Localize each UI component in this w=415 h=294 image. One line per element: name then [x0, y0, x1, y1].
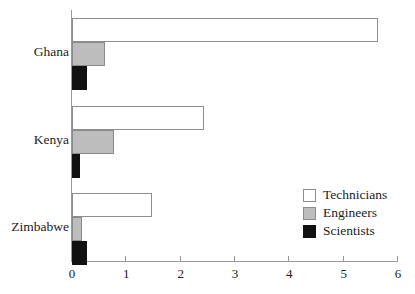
x-tick-label: 2	[166, 266, 196, 281]
legend-label: Scientists	[323, 223, 375, 239]
x-tick-mark	[397, 256, 398, 262]
x-tick-label: 6	[383, 266, 413, 281]
x-tick-mark	[343, 256, 344, 262]
legend-item-technicians[interactable]: Technicians	[303, 186, 411, 204]
bar-zimbabwe-scientists[interactable]	[72, 241, 87, 265]
legend-swatch-scientists-icon	[303, 225, 316, 238]
legend: TechniciansEngineersScientists	[303, 186, 411, 240]
bar-ghana-scientists[interactable]	[72, 66, 87, 90]
legend-swatch-engineers-icon	[303, 207, 316, 220]
bar-zimbabwe-engineers[interactable]	[72, 217, 82, 241]
bar-kenya-technicians[interactable]	[72, 106, 204, 130]
category-label-kenya: Kenya	[34, 132, 69, 147]
x-tick-mark	[180, 256, 181, 262]
x-tick-mark	[234, 256, 235, 262]
bar-chart: 0123456 GhanaKenyaZimbabwe TechniciansEn…	[0, 0, 415, 294]
legend-item-scientists[interactable]: Scientists	[303, 222, 411, 240]
bar-ghana-technicians[interactable]	[72, 18, 378, 42]
x-tick-label: 3	[220, 266, 250, 281]
bar-kenya-engineers[interactable]	[72, 130, 114, 154]
x-tick-label: 1	[111, 266, 141, 281]
x-tick-label: 4	[274, 266, 304, 281]
x-tick-mark	[125, 256, 126, 262]
legend-label: Technicians	[323, 187, 387, 203]
legend-swatch-technicians-icon	[303, 189, 316, 202]
bar-kenya-scientists[interactable]	[72, 154, 80, 178]
x-tick-mark	[288, 256, 289, 262]
x-tick-label: 0	[57, 266, 87, 281]
x-tick-label: 5	[329, 266, 359, 281]
bar-ghana-engineers[interactable]	[72, 42, 105, 66]
legend-label: Engineers	[323, 205, 377, 221]
legend-item-engineers[interactable]: Engineers	[303, 204, 411, 222]
category-label-ghana: Ghana	[34, 44, 69, 59]
category-label-zimbabwe: Zimbabwe	[11, 219, 69, 234]
bar-zimbabwe-technicians[interactable]	[72, 193, 152, 217]
